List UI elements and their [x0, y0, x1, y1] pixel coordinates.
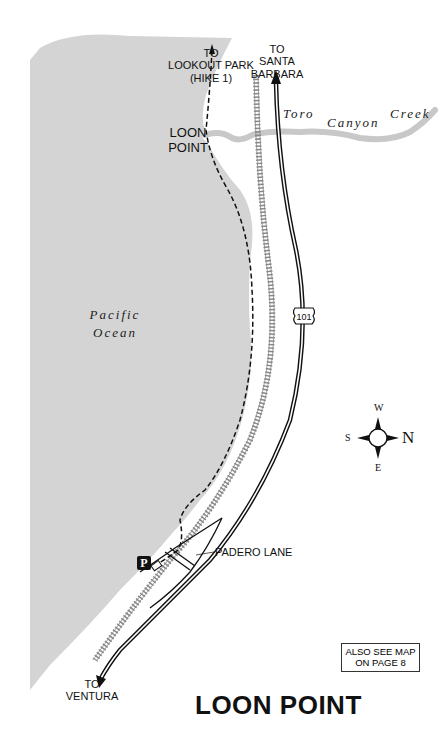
padero-lane-label: PADERO LANE: [215, 546, 292, 558]
pacific-ocean-label: PacificOcean: [80, 306, 150, 342]
loon-point-map: Toro Canyon Creek 101: [0, 0, 447, 739]
loon-point-label: LOONPOINT: [165, 126, 211, 156]
creek-label: Toro Canyon Creek: [283, 106, 431, 130]
padero-leader-line: [196, 552, 214, 555]
compass-west-label: W: [374, 402, 383, 413]
map-title: LOON POINT: [195, 690, 362, 721]
compass-rose-icon: [357, 417, 399, 459]
parking-icon: P: [137, 556, 151, 570]
santa-barbara-label: TOSANTABARBARA: [242, 43, 312, 80]
compass-east-label: E: [375, 462, 381, 473]
ventura-label: TOVENTURA: [62, 678, 122, 703]
map-reference-note: ALSO SEE MAPON PAGE 8: [341, 643, 420, 672]
compass-north-label: N: [402, 428, 414, 448]
shield-number: 101: [296, 312, 311, 322]
compass-south-label: S: [345, 432, 351, 443]
